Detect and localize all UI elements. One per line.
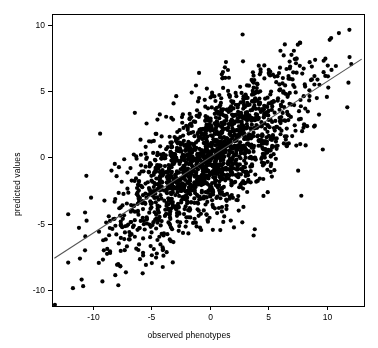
plot-canvas xyxy=(0,0,378,348)
y-axis-label: predicted values xyxy=(12,153,22,217)
scatter-plot-figure: observed phenotypes predicted values -10 xyxy=(0,0,378,348)
x-axis-label: observed phenotypes xyxy=(0,330,378,340)
